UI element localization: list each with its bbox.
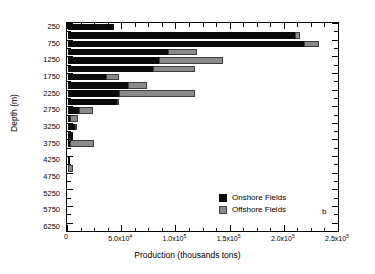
bar-segment-offshore bbox=[119, 90, 195, 96]
bar-segment-onshore bbox=[68, 90, 119, 96]
bar-segment-offshore bbox=[168, 49, 197, 55]
y-tick-label: 6250 bbox=[20, 221, 60, 230]
x-tick-minor-top bbox=[135, 23, 136, 27]
bar-segment-onshore bbox=[68, 82, 128, 88]
y-tick-minor-right bbox=[334, 115, 338, 116]
y-axis-title: Depth (m) bbox=[9, 53, 19, 173]
legend-item-onshore: Onshore Fields bbox=[219, 192, 286, 204]
y-tick-minor bbox=[67, 164, 71, 165]
x-tick-minor bbox=[189, 228, 190, 232]
legend-label-onshore: Onshore Fields bbox=[232, 192, 286, 204]
bar-row bbox=[68, 74, 119, 80]
y-tick-label: 5750 bbox=[20, 205, 60, 214]
bar-row bbox=[68, 49, 197, 55]
bar-row bbox=[68, 132, 73, 138]
y-tick-minor-right bbox=[334, 98, 338, 99]
x-tick-minor-top bbox=[216, 23, 217, 27]
x-tick-minor bbox=[311, 228, 312, 232]
y-tick-minor-right bbox=[334, 65, 338, 66]
y-tick-major-right bbox=[332, 56, 338, 57]
x-axis-title: Production (thousands tons) bbox=[0, 250, 375, 260]
y-tick-minor bbox=[67, 214, 71, 215]
x-tick-minor-top bbox=[108, 23, 109, 27]
bar-row bbox=[68, 66, 195, 72]
bar-segment-offshore bbox=[159, 57, 223, 63]
y-tick-major-right bbox=[332, 73, 338, 74]
x-tick-major-top bbox=[284, 23, 285, 29]
y-tick-major-right bbox=[332, 173, 338, 174]
x-tick-minor-top bbox=[270, 23, 271, 27]
x-tick-major-top bbox=[338, 23, 339, 29]
y-tick-label: 3250 bbox=[20, 122, 60, 131]
y-tick-minor-right bbox=[334, 31, 338, 32]
legend-label-offshore: Offshore Fields bbox=[232, 204, 286, 216]
x-tick-minor bbox=[324, 228, 325, 232]
panel-label: b bbox=[322, 207, 326, 216]
y-tick-minor bbox=[67, 231, 71, 232]
y-tick-label: 3750 bbox=[20, 138, 60, 147]
y-tick-major-right bbox=[332, 106, 338, 107]
bar-segment-onshore bbox=[68, 99, 117, 105]
bar-row bbox=[68, 82, 147, 88]
x-tick-major bbox=[284, 225, 285, 231]
y-tick-major bbox=[67, 73, 73, 74]
bar-row bbox=[68, 41, 319, 47]
y-tick-major-right bbox=[332, 123, 338, 124]
y-tick-major bbox=[67, 139, 73, 140]
y-tick-label: 5250 bbox=[20, 188, 60, 197]
x-tick-minor-top bbox=[257, 23, 258, 27]
y-tick-major-right bbox=[332, 23, 338, 24]
bar-segment-offshore bbox=[106, 74, 119, 80]
bar-segment-offshore bbox=[68, 165, 73, 171]
x-tick-label: 0 bbox=[64, 233, 68, 240]
bar-segment-onshore bbox=[68, 49, 168, 55]
y-tick-minor bbox=[67, 148, 71, 149]
legend-item-offshore: Offshore Fields bbox=[219, 204, 286, 216]
x-tick-label: 2.5x105 bbox=[325, 233, 349, 242]
x-tick-minor bbox=[297, 228, 298, 232]
y-tick-major bbox=[67, 189, 73, 190]
y-tick-major-right bbox=[332, 90, 338, 91]
y-tick-minor bbox=[67, 98, 71, 99]
x-tick-minor bbox=[270, 228, 271, 232]
bar-segment-offshore bbox=[304, 41, 319, 47]
y-tick-minor-right bbox=[334, 81, 338, 82]
x-tick-minor bbox=[257, 228, 258, 232]
y-tick-label: 4750 bbox=[20, 171, 60, 180]
x-tick-major bbox=[175, 225, 176, 231]
y-tick-minor-right bbox=[334, 214, 338, 215]
offshore-swatch-icon bbox=[219, 206, 227, 214]
bar-segment-onshore bbox=[68, 157, 70, 163]
x-tick-major bbox=[230, 225, 231, 231]
bar-row bbox=[68, 140, 94, 146]
x-tick-minor-top bbox=[148, 23, 149, 27]
x-tick-minor-top bbox=[324, 23, 325, 27]
y-tick-major bbox=[67, 206, 73, 207]
x-tick-label: 1.0x105 bbox=[162, 233, 186, 242]
y-tick-major-right bbox=[332, 189, 338, 190]
x-tick-minor-top bbox=[203, 23, 204, 27]
bar-segment-offshore bbox=[70, 140, 94, 146]
bar-segment-onshore bbox=[68, 132, 73, 138]
x-tick-minor-top bbox=[311, 23, 312, 27]
x-tick-major bbox=[121, 225, 122, 231]
y-tick-label: 750 bbox=[20, 38, 60, 47]
x-tick-major bbox=[338, 225, 339, 231]
x-tick-minor bbox=[135, 228, 136, 232]
bar-segment-onshore bbox=[68, 107, 79, 113]
bar-segment-offshore bbox=[153, 66, 195, 72]
bar-row bbox=[68, 99, 118, 105]
x-tick-label: 2.0x105 bbox=[271, 233, 295, 242]
y-tick-minor bbox=[67, 65, 71, 66]
x-tick-minor bbox=[94, 228, 95, 232]
x-tick-minor bbox=[162, 228, 163, 232]
x-tick-minor-top bbox=[297, 23, 298, 27]
y-tick-minor bbox=[67, 181, 71, 182]
bar-segment-onshore bbox=[68, 57, 159, 63]
chart-legend: Onshore Fields Offshore Fields bbox=[219, 192, 286, 216]
x-tick-label: 5.0x104 bbox=[108, 233, 132, 242]
y-tick-label: 2250 bbox=[20, 88, 60, 97]
y-tick-minor bbox=[67, 198, 71, 199]
y-tick-minor bbox=[67, 48, 71, 49]
bar-segment-onshore bbox=[68, 41, 304, 47]
